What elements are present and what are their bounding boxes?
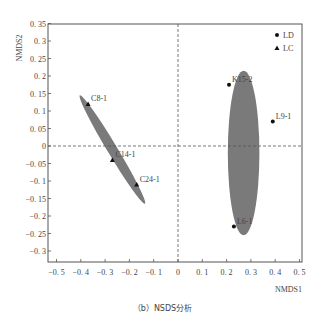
x-tick-label: 0 (176, 268, 180, 277)
y-tick-label: 0. 3 (34, 37, 46, 46)
y-tick-label: 0 (42, 142, 46, 151)
point-marker-circle (227, 83, 231, 87)
y-tick-label: −0. 1 (29, 177, 46, 186)
point-label: L9-1 (276, 112, 292, 121)
x-tick-label: −0. 5 (48, 268, 65, 277)
y-tick-label: 0. 05 (30, 125, 46, 134)
x-tick-label: −0. 2 (121, 268, 138, 277)
point-marker-circle (271, 120, 275, 124)
y-tick-label: −0. 05 (25, 160, 46, 169)
x-tick-label: 0. 4 (269, 268, 281, 277)
legend-marker-triangle (275, 46, 280, 51)
y-tick-label: −0. 25 (25, 230, 46, 239)
point-label: C8-1 (91, 94, 107, 103)
legend-label-lc: LC (283, 44, 293, 53)
y-tick-label: 0. 35 (30, 20, 46, 29)
plot-frame (48, 24, 302, 262)
x-tick-label: 0. 5 (294, 268, 306, 277)
x-tick-label: 0. 2 (221, 268, 233, 277)
point-marker-circle (232, 225, 236, 229)
y-axis-label: NMDS2 (15, 34, 24, 61)
data-points: K15-2L9-1L6-1C8-1C14-1C24-1 (86, 75, 292, 229)
y-tick-label: −0. 3 (29, 247, 46, 256)
y-tick-label: 0. 2 (34, 72, 46, 81)
x-axis-label: NMDS1 (275, 285, 302, 294)
x-tick-label: 0. 3 (245, 268, 257, 277)
legend-label-ld: LD (283, 31, 294, 40)
point-label: C14-1 (115, 150, 135, 159)
legend: LDLC (275, 31, 294, 53)
ellipse-ld (228, 71, 260, 236)
point-label: C24-1 (140, 175, 160, 184)
y-tick-label: 0. 25 (30, 55, 46, 64)
y-tick-label: −0. 15 (25, 195, 46, 204)
x-tick-label: −0. 4 (73, 268, 90, 277)
y-tick-label: 0. 15 (30, 90, 46, 99)
point-label: L6-1 (237, 217, 253, 226)
axes: −0. 5−0. 4−0. 3−0. 2−0. 100. 10. 20. 30.… (15, 20, 306, 295)
y-tick-label: 0. 1 (34, 107, 46, 116)
x-tick-label: −0. 3 (97, 268, 114, 277)
y-tick-label: −0. 2 (29, 212, 46, 221)
x-tick-label: −0. 1 (145, 268, 162, 277)
legend-marker-circle (275, 33, 279, 37)
ellipse-lc (76, 93, 150, 207)
x-tick-label: 0. 1 (196, 268, 208, 277)
point-label: K15-2 (232, 75, 252, 84)
nmds-chart: −0. 5−0. 4−0. 3−0. 2−0. 100. 10. 20. 30.… (0, 0, 325, 300)
figure-caption: （b）NSDS分析 (0, 302, 325, 313)
